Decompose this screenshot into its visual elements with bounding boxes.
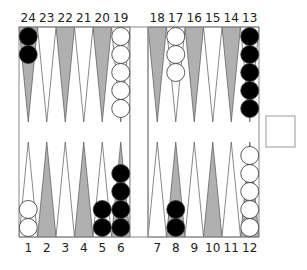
white-checker[interactable] — [241, 183, 259, 201]
black-checker[interactable] — [112, 183, 130, 201]
white-checker[interactable] — [112, 100, 130, 118]
point-label: 19 — [113, 11, 128, 25]
black-checker[interactable] — [241, 64, 259, 82]
point-label: 4 — [80, 241, 88, 255]
black-checker[interactable] — [167, 219, 185, 237]
white-checker[interactable] — [241, 219, 259, 237]
point-14[interactable] — [222, 27, 241, 122]
white-checker[interactable] — [19, 201, 37, 219]
point-label: 14 — [224, 11, 239, 25]
black-checker[interactable] — [167, 201, 185, 219]
point-label: 12 — [242, 241, 257, 255]
black-checker[interactable] — [241, 46, 259, 64]
point-18[interactable] — [148, 27, 167, 122]
point-9[interactable] — [185, 142, 204, 237]
black-checker[interactable] — [93, 201, 111, 219]
point-label: 22 — [58, 11, 73, 25]
point-3[interactable] — [56, 142, 75, 237]
point-label: 7 — [153, 241, 161, 255]
white-checker[interactable] — [167, 46, 185, 64]
black-checker[interactable] — [19, 46, 37, 64]
point-20[interactable] — [93, 27, 112, 122]
white-checker[interactable] — [112, 28, 130, 46]
black-checker[interactable] — [112, 201, 130, 219]
point-16[interactable] — [185, 27, 204, 122]
point-label: 17 — [168, 11, 183, 25]
black-checker[interactable] — [112, 165, 130, 183]
point-label: 9 — [190, 241, 198, 255]
black-checker[interactable] — [112, 219, 130, 237]
backgammon-board: 242322212019181716151413 123456789101112 — [0, 0, 307, 270]
point-10[interactable] — [204, 142, 223, 237]
point-label: 2 — [43, 241, 51, 255]
black-checker[interactable] — [19, 28, 37, 46]
white-checker[interactable] — [167, 28, 185, 46]
point-label: 3 — [61, 241, 69, 255]
black-checker[interactable] — [241, 28, 259, 46]
point-label: 11 — [224, 241, 239, 255]
point-15[interactable] — [204, 27, 223, 122]
point-22[interactable] — [56, 27, 75, 122]
point-label: 15 — [205, 11, 220, 25]
point-23[interactable] — [38, 27, 57, 122]
white-checker[interactable] — [241, 201, 259, 219]
white-checker[interactable] — [112, 46, 130, 64]
black-checker[interactable] — [241, 82, 259, 100]
bar[interactable] — [130, 27, 148, 237]
point-label: 24 — [21, 11, 36, 25]
point-label: 21 — [76, 11, 91, 25]
point-21[interactable] — [75, 27, 94, 122]
black-checker[interactable] — [93, 219, 111, 237]
top-point-labels: 242322212019181716151413 — [21, 11, 258, 25]
point-label: 5 — [98, 241, 106, 255]
point-label: 13 — [242, 11, 257, 25]
bottom-point-labels: 123456789101112 — [24, 241, 257, 255]
point-4[interactable] — [75, 142, 94, 237]
black-checker[interactable] — [241, 100, 259, 118]
doubling-cube[interactable] — [266, 116, 295, 147]
white-checker[interactable] — [19, 219, 37, 237]
point-label: 8 — [172, 241, 180, 255]
point-label: 1 — [24, 241, 32, 255]
point-7[interactable] — [148, 142, 167, 237]
white-checker[interactable] — [112, 64, 130, 82]
point-label: 23 — [39, 11, 54, 25]
point-label: 18 — [150, 11, 165, 25]
board-frame — [19, 27, 259, 237]
point-label: 16 — [187, 11, 202, 25]
point-label: 20 — [95, 11, 110, 25]
point-11[interactable] — [222, 142, 241, 237]
white-checker[interactable] — [241, 147, 259, 165]
white-checker[interactable] — [167, 64, 185, 82]
point-label: 6 — [117, 241, 125, 255]
white-checker[interactable] — [241, 165, 259, 183]
point-label: 10 — [205, 241, 220, 255]
white-checker[interactable] — [112, 82, 130, 100]
point-2[interactable] — [38, 142, 57, 237]
